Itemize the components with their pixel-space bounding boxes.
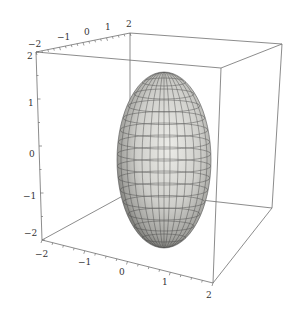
bottom-tick-label: −1 [78,257,91,267]
bottom-axis: −2 −1 0 1 2 [35,240,213,300]
bottom-tick-label: 0 [119,267,125,277]
top-axis: −2 −1 0 1 2 [28,19,132,55]
bottom-tick-label: 2 [206,290,212,300]
left-tick-label: 0 [29,149,35,159]
bottom-tick-label: 1 [162,277,168,287]
ellipsoid-3d-plot: −2 −1 0 1 2 2 1 0 −1 −2 [0,0,298,314]
top-tick-label: 1 [105,22,111,32]
left-axis: 2 1 0 −1 −2 [23,51,45,240]
top-tick-label: −1 [57,32,70,42]
top-tick-label: 0 [84,27,90,37]
top-tick-label: 2 [126,19,132,29]
left-tick-label: 1 [28,98,34,108]
left-tick-label: 2 [27,51,33,61]
bottom-tick-label: −2 [35,249,48,259]
left-tick-label: −2 [24,228,37,238]
left-tick-label: −1 [23,191,36,201]
ellipsoid-surface [117,72,211,248]
top-tick-label: −2 [28,39,41,49]
